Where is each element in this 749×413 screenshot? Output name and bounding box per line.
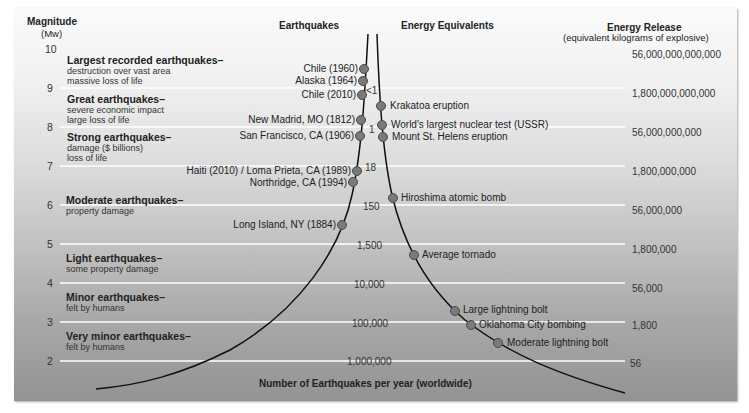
energy-value: 1,800,000,000	[632, 166, 696, 177]
equivalent-label: Mount St. Helens eruption	[392, 131, 508, 142]
magnitude-tick: 8	[47, 121, 53, 133]
magnitude-tick: 7	[47, 160, 53, 172]
earthquake-label: San Francisco, CA (1906)	[240, 130, 355, 141]
equivalent-label: Hiroshima atomic bomb	[401, 192, 506, 203]
earthquakes-header: Earthquakes	[279, 20, 339, 31]
count-label: 1	[369, 124, 375, 135]
earthquake-label: New Madrid, MO (1812)	[248, 114, 355, 125]
earthquake-label: Long Island, NY (1884)	[233, 219, 336, 230]
magnitude-header: Magnitude	[27, 16, 77, 27]
category-very-minor: Very minor earthquakes– felt by humans	[66, 330, 191, 352]
energy-release-unit: (equivalent kilograms of explosive)	[563, 32, 709, 43]
count-label: 10,000	[354, 279, 385, 290]
equivalent-label: Krakatoa eruption	[390, 100, 469, 111]
equivalent-label: Oklahoma City bombing	[479, 319, 586, 330]
energy-value: 56	[630, 358, 641, 369]
equivalent-label: Average tornado	[422, 249, 496, 260]
x-axis-title: Number of Earthquakes per year (worldwid…	[259, 378, 472, 389]
count-label: 100,000	[352, 318, 388, 329]
equivalent-label: World's largest nuclear test (USSR)	[391, 119, 548, 130]
magnitude-tick: 9	[47, 82, 53, 94]
earthquake-label: Haiti (2010) / Loma Prieta, CA (1989)	[186, 165, 351, 176]
earthquake-label: Chile (1960)	[304, 63, 358, 74]
earthquake-label: Alaska (1964)	[295, 75, 357, 86]
count-label: <1	[366, 85, 377, 96]
count-label: 1,000,000	[347, 356, 392, 367]
category-largest: Largest recorded earthquakes– destructio…	[67, 54, 223, 86]
category-great: Great earthquakes– severe economic impac…	[67, 93, 165, 125]
magnitude-tick: 6	[47, 199, 53, 211]
category-minor: Minor earthquakes– felt by humans	[66, 291, 165, 313]
magnitude-tick: 2	[47, 355, 53, 367]
magnitude-tick: 10	[45, 43, 57, 55]
energy-value: 1,800,000	[632, 244, 677, 255]
count-label: 150	[363, 201, 380, 212]
count-label: 18	[365, 162, 376, 173]
energy-value: 56,000,000,000,000	[632, 49, 721, 60]
magnitude-tick: 3	[47, 316, 53, 328]
magnitude-unit: (Mw)	[41, 28, 62, 39]
energy-value: 1,800,000,000,000	[632, 88, 715, 99]
energy-value: 56,000	[632, 283, 663, 294]
earthquake-label: Northridge, CA (1994)	[250, 177, 347, 188]
equivalent-label: Large lightning bolt	[463, 304, 548, 315]
earthquake-label: Chile (2010)	[302, 89, 356, 100]
magnitude-tick: 4	[47, 277, 53, 289]
energy-value: 56,000,000,000	[632, 127, 702, 138]
magnitude-tick: 5	[47, 238, 53, 250]
category-moderate: Moderate earthquakes– property damage	[66, 194, 183, 216]
energy-value: 56,000,000	[632, 205, 682, 216]
category-light: Light earthquakes– some property damage	[66, 252, 162, 274]
count-label: 1,500	[357, 240, 382, 251]
category-strong: Strong earthquakes– damage ($ billions) …	[67, 131, 171, 163]
energy-equivalents-header: Energy Equivalents	[401, 20, 494, 31]
energy-value: 1,800	[632, 320, 657, 331]
equivalent-label: Moderate lightning bolt	[507, 337, 608, 348]
